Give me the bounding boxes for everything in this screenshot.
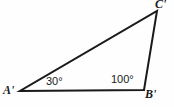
vertex-label-c: C' xyxy=(155,0,166,10)
vertex-label-b: B' xyxy=(145,88,156,100)
angle-label-b: 100° xyxy=(111,74,134,85)
angle-label-a: 30° xyxy=(46,76,63,87)
triangle-figure: A' B' C' 30° 100° xyxy=(0,0,174,107)
triangle-outline xyxy=(20,11,157,91)
vertex-label-a: A' xyxy=(3,84,14,96)
